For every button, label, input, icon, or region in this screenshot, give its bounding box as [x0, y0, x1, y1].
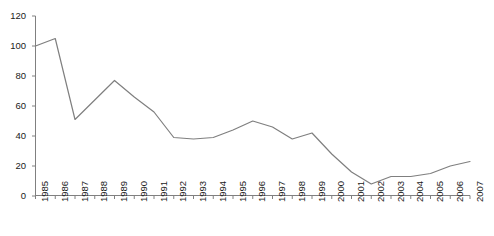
- x-tick-label: 1986: [60, 181, 70, 202]
- x-tick-label: 1994: [218, 181, 228, 202]
- x-tick-label: 1988: [99, 181, 109, 202]
- x-tick-label: 1997: [277, 181, 287, 202]
- y-axis: [32, 16, 36, 196]
- x-tick-label: 2005: [435, 181, 445, 202]
- x-tick-label: 2006: [455, 181, 465, 202]
- x-tick-label: 1998: [297, 181, 307, 202]
- x-tick-label: 1985: [40, 181, 50, 202]
- x-tick-label: 1993: [198, 181, 208, 202]
- y-tick-label: 0: [0, 191, 26, 201]
- y-tick-label: 20: [0, 161, 26, 171]
- x-tick-label: 2007: [475, 181, 485, 202]
- x-tick-label: 2003: [396, 181, 406, 202]
- x-tick-label: 1999: [317, 181, 327, 202]
- y-tick-label: 40: [0, 131, 26, 141]
- x-tick-label: 2002: [376, 181, 386, 202]
- x-tick-label: 1987: [80, 181, 90, 202]
- data-series-line: [36, 39, 471, 185]
- x-tick-label: 1989: [119, 181, 129, 202]
- x-tick-label: 1990: [139, 181, 149, 202]
- y-tick-label: 60: [0, 101, 26, 111]
- x-tick-label: 2000: [336, 181, 346, 202]
- line-chart: 020406080100120 198519861987198819891990…: [0, 0, 494, 236]
- x-tick-label: 1996: [257, 181, 267, 202]
- y-tick-label: 80: [0, 71, 26, 81]
- y-tick-label: 120: [0, 11, 26, 21]
- x-tick-label: 2004: [415, 181, 425, 202]
- x-tick-label: 2001: [356, 181, 366, 202]
- x-tick-label: 1992: [178, 181, 188, 202]
- y-tick-label: 100: [0, 41, 26, 51]
- x-tick-label: 1991: [159, 181, 169, 202]
- x-tick-label: 1995: [238, 181, 248, 202]
